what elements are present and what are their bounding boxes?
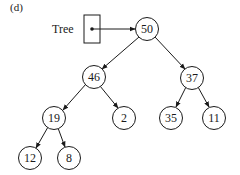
node-value: 37: [186, 71, 198, 85]
tree-edges: [36, 37, 209, 148]
node-value: 46: [88, 70, 100, 84]
node-value: 11: [208, 111, 220, 125]
edge-46-19: [63, 84, 86, 110]
tree-node-12: 12: [19, 147, 42, 170]
edge-19-12: [36, 127, 48, 148]
edge-50-46: [102, 37, 139, 69]
node-value: 2: [121, 111, 127, 125]
tree-node-35: 35: [160, 107, 183, 130]
tree-pointer-label: Tree: [52, 22, 74, 36]
edge-19-8: [58, 128, 65, 147]
binary-tree-diagram: (d) Tree 50 46 37 19 2 35 11: [0, 0, 240, 175]
tree-node-8: 8: [58, 147, 81, 170]
edge-37-35: [176, 87, 186, 107]
tree-node-11: 11: [203, 107, 226, 130]
edge-50-37: [155, 37, 185, 69]
edge-37-11: [198, 87, 209, 107]
tree-node-50: 50: [136, 18, 159, 41]
tree-node-37: 37: [181, 67, 204, 90]
node-value: 8: [66, 151, 72, 165]
node-value: 12: [24, 151, 36, 165]
edge-46-2: [100, 86, 118, 108]
tree-node-2: 2: [113, 107, 136, 130]
tree-node-46: 46: [83, 66, 106, 89]
node-value: 35: [165, 111, 177, 125]
figure-label: (d): [10, 1, 23, 14]
node-value: 50: [141, 22, 153, 36]
tree-node-19: 19: [43, 107, 66, 130]
node-value: 19: [48, 111, 60, 125]
